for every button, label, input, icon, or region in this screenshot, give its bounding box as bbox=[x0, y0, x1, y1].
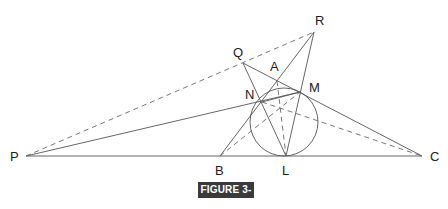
label-A: A bbox=[270, 60, 279, 73]
dashed-AL bbox=[277, 81, 286, 156]
label-L: L bbox=[282, 164, 289, 177]
label-Q: Q bbox=[233, 46, 243, 59]
label-B: B bbox=[215, 164, 224, 177]
label-C: C bbox=[430, 150, 439, 163]
label-R: R bbox=[315, 14, 324, 27]
dashed-PR bbox=[26, 32, 314, 156]
figure-caption: FIGURE 3-11 bbox=[198, 182, 254, 198]
incircle bbox=[250, 88, 318, 156]
label-M: M bbox=[309, 81, 320, 94]
label-N: N bbox=[245, 88, 254, 101]
line-QC bbox=[243, 63, 422, 156]
dashed-NC bbox=[262, 102, 422, 156]
line-PM bbox=[26, 92, 300, 156]
label-P: P bbox=[10, 150, 19, 163]
geometry-diagram bbox=[0, 0, 448, 209]
